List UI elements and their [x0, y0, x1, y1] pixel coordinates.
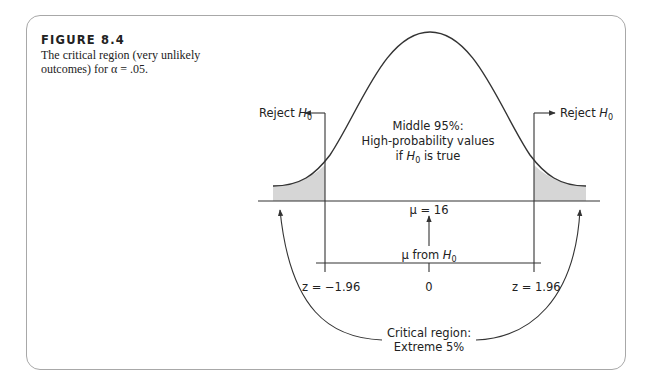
- critical-region-line1: Critical region:: [387, 326, 471, 340]
- middle-label-line3: if H0 is true: [396, 149, 461, 165]
- critical-arc-right: [476, 210, 580, 340]
- middle-label-line2: High-probability values: [362, 134, 495, 148]
- z-center-label: 0: [425, 280, 432, 294]
- z-right-label: z = 1.96: [512, 280, 561, 294]
- critical-region-line2: Extreme 5%: [394, 340, 464, 354]
- mu-from-h0-label: μ from H0: [401, 248, 456, 264]
- normal-distribution-diagram: Reject H0 Reject H0 Middle 95%: High-pro…: [0, 0, 656, 385]
- right-tail-shade: [534, 165, 586, 201]
- reject-left-label: Reject H0: [259, 106, 312, 122]
- critical-arc-left: [280, 210, 382, 340]
- z-left-label: z = −1.96: [302, 280, 360, 294]
- reject-right-label: Reject H0: [560, 106, 613, 122]
- middle-label-line1: Middle 95%:: [392, 119, 463, 133]
- mu-value-label: μ = 16: [410, 203, 449, 217]
